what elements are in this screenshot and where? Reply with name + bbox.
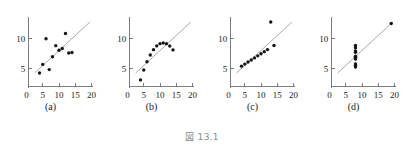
x-tick-label: 5 bbox=[142, 90, 147, 100]
x-tick-label: 20 bbox=[289, 90, 299, 100]
plot-svg-d: 05101520510 bbox=[303, 0, 404, 104]
data-point bbox=[269, 20, 272, 23]
x-tick-label: 20 bbox=[87, 90, 97, 100]
y-tick-label: 10 bbox=[319, 34, 329, 44]
data-point bbox=[139, 78, 142, 81]
x-tick-label: 15 bbox=[172, 90, 182, 100]
data-point bbox=[149, 53, 152, 56]
panel-c: 05101520510 (c) bbox=[202, 0, 303, 126]
data-point bbox=[171, 48, 174, 51]
panel-a: 05101520510 (a) bbox=[0, 0, 101, 126]
x-tick-label: 0 bbox=[226, 90, 231, 100]
panel-label-d: (d) bbox=[303, 101, 404, 113]
panel-b: 05101520510 (b) bbox=[101, 0, 202, 126]
x-tick-label: 15 bbox=[71, 90, 81, 100]
data-point bbox=[158, 42, 161, 45]
scatter-plot-a: 05101520510 bbox=[0, 0, 101, 104]
data-point bbox=[54, 44, 57, 47]
data-point bbox=[354, 63, 357, 66]
data-point bbox=[253, 56, 256, 59]
y-tick-label: 5 bbox=[223, 64, 228, 74]
scatter-plot-d: 05101520510 bbox=[303, 0, 404, 104]
x-tick-label: 5 bbox=[243, 90, 248, 100]
data-point bbox=[250, 58, 253, 61]
regression-line bbox=[338, 22, 393, 73]
data-point bbox=[48, 68, 51, 71]
data-point bbox=[57, 49, 60, 52]
data-point bbox=[256, 54, 259, 57]
data-point bbox=[165, 42, 168, 45]
data-point bbox=[61, 47, 64, 50]
y-tick-label: 5 bbox=[21, 64, 26, 74]
x-tick-label: 10 bbox=[55, 90, 65, 100]
data-point bbox=[64, 32, 67, 35]
data-point bbox=[354, 55, 357, 58]
data-point bbox=[70, 51, 73, 54]
data-point bbox=[266, 48, 269, 51]
figure-anscombe-quartet: 05101520510 (a) 05101520510 (b) 05101520… bbox=[0, 0, 404, 156]
data-point bbox=[168, 44, 171, 47]
y-tick-label: 10 bbox=[218, 34, 228, 44]
data-point bbox=[162, 41, 165, 44]
x-tick-label: 0 bbox=[327, 90, 332, 100]
data-point bbox=[44, 37, 47, 40]
x-tick-label: 10 bbox=[358, 90, 368, 100]
data-point bbox=[152, 48, 155, 51]
panel-label-b: (b) bbox=[101, 101, 202, 113]
x-tick-label: 15 bbox=[374, 90, 384, 100]
plot-svg-a: 05101520510 bbox=[0, 0, 101, 104]
data-point bbox=[145, 60, 148, 63]
panel-label-c: (c) bbox=[202, 101, 303, 113]
y-tick-label: 5 bbox=[122, 64, 127, 74]
data-point bbox=[259, 52, 262, 55]
x-tick-label: 0 bbox=[125, 90, 130, 100]
data-point bbox=[51, 55, 54, 58]
plot-svg-b: 05101520510 bbox=[101, 0, 202, 104]
data-point bbox=[243, 62, 246, 65]
data-point bbox=[240, 64, 243, 67]
scatter-plot-c: 05101520510 bbox=[202, 0, 303, 104]
x-tick-label: 10 bbox=[257, 90, 267, 100]
panel-label-a: (a) bbox=[0, 101, 101, 113]
x-tick-label: 20 bbox=[390, 90, 400, 100]
data-point bbox=[246, 60, 249, 63]
x-tick-label: 20 bbox=[188, 90, 198, 100]
panels-row: 05101520510 (a) 05101520510 (b) 05101520… bbox=[0, 0, 404, 126]
panel-d: 05101520510 (d) bbox=[303, 0, 404, 126]
y-tick-label: 10 bbox=[16, 34, 26, 44]
x-tick-label: 5 bbox=[41, 90, 46, 100]
data-point bbox=[41, 63, 44, 66]
data-point bbox=[354, 46, 357, 49]
data-point bbox=[272, 44, 275, 47]
x-tick-label: 5 bbox=[344, 90, 349, 100]
data-point bbox=[354, 49, 357, 52]
figure-caption: 図 13.1 bbox=[0, 130, 404, 144]
data-point bbox=[155, 44, 158, 47]
regression-line bbox=[136, 22, 191, 73]
data-point bbox=[38, 71, 41, 74]
x-tick-label: 10 bbox=[156, 90, 166, 100]
x-tick-label: 0 bbox=[24, 90, 29, 100]
data-point bbox=[390, 22, 393, 25]
y-tick-label: 5 bbox=[324, 64, 329, 74]
data-point bbox=[142, 68, 145, 71]
plot-svg-c: 05101520510 bbox=[202, 0, 303, 104]
data-point bbox=[67, 51, 70, 54]
data-point bbox=[263, 50, 266, 53]
x-tick-label: 15 bbox=[273, 90, 283, 100]
scatter-plot-b: 05101520510 bbox=[101, 0, 202, 104]
y-tick-label: 10 bbox=[117, 34, 127, 44]
